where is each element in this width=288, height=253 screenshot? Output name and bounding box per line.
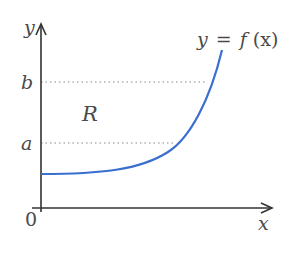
level-b-label: b [21, 71, 33, 93]
origin-label: 0 [25, 208, 37, 230]
x-axis-label: x [258, 212, 269, 234]
curve-label-eq: = [216, 28, 232, 50]
curve-label-f: f [238, 28, 250, 50]
curve-equation-label: y = f (x) [196, 28, 278, 50]
region-label: R [81, 102, 98, 126]
curve-label-lhs: y [196, 28, 208, 50]
diagram-svg: y x 0 b a R y = f (x) [0, 0, 288, 253]
diagram-canvas: y x 0 b a R y = f (x) [0, 0, 288, 253]
level-a-label: a [21, 132, 32, 154]
curve-label-arg: (x) [253, 28, 279, 50]
y-axis-label: y [23, 16, 35, 38]
function-curve [41, 50, 222, 174]
